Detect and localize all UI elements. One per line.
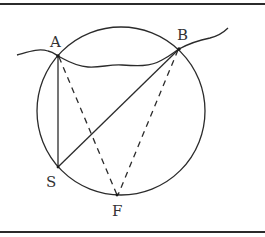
label-s: S: [46, 173, 56, 191]
dashed-segment-b-f: [118, 50, 178, 195]
point-s-marker: [57, 166, 60, 169]
wavy-line: [17, 28, 228, 67]
geometry-diagram: A B S F: [0, 0, 265, 237]
label-b: B: [177, 26, 188, 44]
circle: [37, 27, 205, 195]
point-f-marker: [116, 194, 119, 197]
segment-s-b: [58, 49, 179, 167]
point-b-marker: [177, 47, 181, 51]
label-f: F: [112, 202, 122, 220]
point-a-marker: [56, 54, 60, 58]
label-a: A: [49, 33, 61, 51]
dashed-segment-a-f: [59, 57, 117, 195]
